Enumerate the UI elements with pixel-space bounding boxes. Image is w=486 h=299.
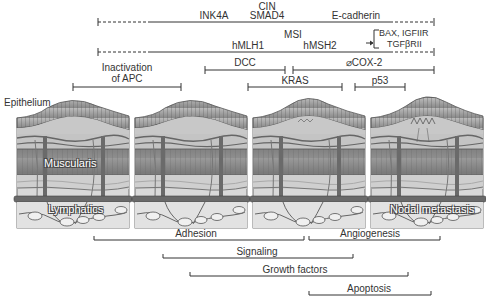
process-adhesion: Adhesion [175, 229, 217, 239]
p53-label: p53 [372, 76, 389, 86]
msi-target-tgfbrii: TGFβRII [387, 40, 422, 49]
apc-label-line1: Inactivation [102, 63, 153, 73]
epithelium-label: Epithelium [4, 98, 51, 108]
nodal-metastasis-label: Nodal metastasis [390, 204, 474, 215]
lymphatics-label: Lymphatics [48, 204, 103, 215]
process-apoptosis: Apoptosis [347, 284, 391, 294]
msi-label: MSI [284, 30, 302, 40]
kras-label: KRAS [281, 76, 308, 86]
dcc-label: DCC [234, 58, 256, 68]
muscularis-label: Muscularis [44, 158, 97, 169]
gene-ink4a: INK4A [200, 11, 229, 21]
msi-target-bax-igfiir: BAX, IGFIIR [379, 29, 429, 38]
tissue-block-3 [250, 98, 368, 228]
cox2-label: ⌀COX-2 [346, 58, 383, 68]
gene-hmsh2: hMSH2 [303, 41, 336, 51]
process-angiogenesis: Angiogenesis [340, 229, 400, 239]
gene-hmlh1: hMLH1 [232, 41, 264, 51]
process-signaling: Signaling [236, 247, 277, 257]
process-growth-factors: Growth factors [262, 265, 327, 275]
tissue-block-2 [132, 100, 250, 228]
gene-smad4: SMAD4 [250, 11, 284, 21]
gene-e-cadherin: E-cadherin [332, 11, 380, 21]
apc-label-line2: of APC [111, 74, 142, 84]
